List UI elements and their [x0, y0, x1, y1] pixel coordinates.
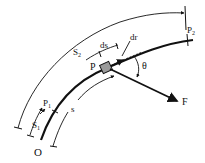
label-force: F [182, 96, 188, 107]
label-p: P [90, 61, 96, 72]
label-ds: ds [100, 40, 109, 50]
s1-start-tick [27, 135, 34, 137]
label-p2: P2 [187, 25, 195, 36]
p2-tick [187, 34, 188, 46]
theta-arc [134, 56, 139, 77]
label-theta: θ [142, 60, 147, 71]
label-s2: S2 [73, 47, 81, 58]
ds-tick-right [116, 43, 118, 49]
label-p1: P1 [43, 98, 51, 109]
diagram-canvas: O P P1 P2 S1 S2 s ds dr θ F [0, 0, 205, 163]
work-force-diagram: O P P1 P2 S1 S2 s ds dr θ F [0, 0, 205, 163]
s-arc-lower [53, 112, 68, 146]
force-vector [110, 69, 177, 101]
particle-block [100, 61, 113, 73]
label-s: s [71, 104, 75, 114]
s2-end-tick [185, 6, 186, 30]
path-curve [41, 40, 193, 140]
label-dr: dr [130, 32, 138, 42]
s-start-tick [50, 146, 57, 147]
label-origin: O [34, 146, 42, 158]
dr-leader [122, 41, 130, 56]
label-s1: S1 [32, 120, 40, 131]
